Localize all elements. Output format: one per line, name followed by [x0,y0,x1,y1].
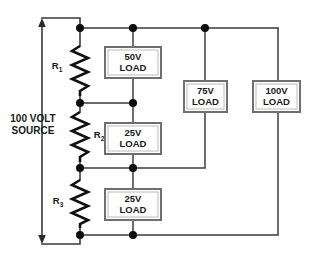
branch-load-100v: 100V LOAD [253,28,300,235]
load-25v-lower-label: LOAD [120,204,147,215]
load-25v-lower-voltage: 25V [125,193,143,204]
source-label: 100 VOLT SOURCE [10,113,55,136]
load-25v-upper-label: LOAD [120,138,147,149]
node-bottom-left [76,231,84,239]
node-mid-25v-25v [129,164,137,172]
source-label-line2: SOURCE [12,125,55,136]
node-bottom-25v [129,231,137,239]
node-r1-r2 [76,99,84,107]
resistor-r2 [72,112,88,162]
branch-load-75v: 75V LOAD [184,28,227,168]
resistor-r3-label: R3 [53,195,64,208]
resistor-r3 [72,180,88,228]
load-25v-upper-voltage: 25V [125,127,143,138]
branch-load-50v: 50V LOAD [105,28,161,103]
load-50v-voltage: 50V [125,51,143,62]
load-50v-label: LOAD [120,62,147,73]
node-top-left [76,24,84,32]
load-75v-label: LOAD [192,96,219,107]
schematic-svg: R1 R2 R3 50V LOAD [0,0,317,259]
node-top-50v [129,24,137,32]
resistor-r2-label: R2 [94,129,105,142]
branch-load-25v-upper: 25V LOAD [105,103,161,168]
source-label-line1: 100 VOLT [10,113,55,124]
load-100v-label: LOAD [263,96,290,107]
circuit-diagram-canvas: R1 R2 R3 50V LOAD [0,0,317,259]
load-75v-voltage: 75V [197,85,215,96]
resistor-r1 [72,46,88,96]
load-100v-voltage: 100V [265,85,288,96]
node-top-75v [201,24,209,32]
node-r2-r3 [76,164,84,172]
resistor-r1-label: R1 [52,60,63,73]
node-mid-50v-25v [129,99,137,107]
branch-load-25v-lower: 25V LOAD [105,168,161,235]
